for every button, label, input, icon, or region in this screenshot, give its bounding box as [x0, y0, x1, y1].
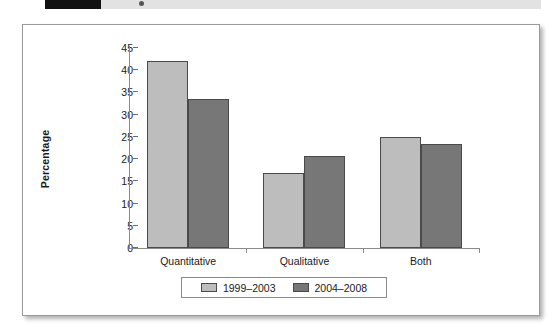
bar-group — [246, 48, 362, 248]
y-axis-tick-label: 0 — [33, 242, 133, 254]
y-axis-tick-label: 10 — [33, 198, 133, 210]
figure-frame: Percentage 454035302520151050 Quantitati… — [22, 24, 540, 316]
bar-quantitative-1999-2003[interactable] — [147, 61, 188, 248]
x-axis-tick-mark — [479, 248, 480, 253]
bar-both-1999-2003[interactable] — [380, 137, 421, 248]
y-axis-tick-label: 40 — [33, 64, 133, 76]
x-axis-label: Qualitative — [246, 255, 362, 267]
x-axis-label: Both — [363, 255, 479, 267]
y-axis-tick-label: 25 — [33, 131, 133, 143]
figure-number-block: 5 — [45, 0, 101, 9]
bar-group — [363, 48, 479, 248]
chart-legend: 1999–20032004–2008 — [181, 277, 387, 298]
x-axis-tick-mark — [363, 248, 364, 253]
chart-plot-area: Percentage 454035302520151050 Quantitati… — [23, 25, 541, 317]
bar-both-2004-2008[interactable] — [421, 144, 462, 248]
y-axis-tick-label: 20 — [33, 153, 133, 165]
figure-caption-strip: 5 — [0, 0, 560, 11]
legend-item[interactable]: 2004–2008 — [293, 282, 368, 294]
legend-label: 1999–2003 — [223, 282, 276, 294]
bar-qualitative-2004-2008[interactable] — [304, 156, 345, 248]
x-axis-label: Quantitative — [130, 255, 246, 267]
y-axis-tick-label: 30 — [33, 109, 133, 121]
bar-group — [130, 48, 246, 248]
bar-quantitative-2004-2008[interactable] — [188, 99, 229, 248]
x-axis-line — [129, 248, 479, 249]
y-axis-tick-label: 5 — [33, 220, 133, 232]
y-axis-tick-label: 15 — [33, 175, 133, 187]
bars-container — [130, 48, 479, 248]
legend-swatch-icon — [293, 283, 309, 292]
y-axis-ticks: 454035302520151050 — [23, 25, 133, 275]
legend-item[interactable]: 1999–2003 — [201, 282, 276, 294]
caption-bullet-icon — [139, 1, 144, 6]
y-axis-tick-label: 35 — [33, 86, 133, 98]
y-axis-tick-label: 45 — [33, 42, 133, 54]
legend-swatch-icon — [201, 283, 217, 292]
caption-text-block — [101, 0, 541, 9]
bar-qualitative-1999-2003[interactable] — [263, 173, 304, 248]
x-axis-tick-mark — [246, 248, 247, 253]
legend-label: 2004–2008 — [315, 282, 368, 294]
